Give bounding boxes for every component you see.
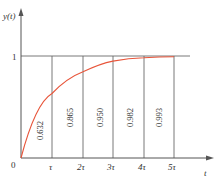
exponential-response-chart: y(t) t 0 1 τ 2τ 3τ 4τ 5τ 0.632 0.865 0.9… bbox=[0, 0, 223, 179]
value-tau-1: 0.632 bbox=[35, 121, 45, 140]
value-tau-5: 0.993 bbox=[154, 108, 164, 127]
y-tick-one: 1 bbox=[12, 52, 17, 62]
vertical-gridlines bbox=[52, 56, 174, 158]
x-axis-label: t bbox=[204, 168, 207, 178]
value-tau-3: 0.950 bbox=[95, 108, 105, 127]
x-tick-tau-5: 5τ bbox=[168, 162, 177, 172]
value-annotations: 0.632 0.865 0.950 0.982 0.993 bbox=[35, 108, 164, 140]
y-axis-label: y(t) bbox=[2, 11, 16, 21]
x-tick-tau-4: 4τ bbox=[138, 162, 147, 172]
x-tick-tau-1: τ bbox=[49, 162, 53, 172]
value-tau-2: 0.865 bbox=[65, 108, 75, 127]
x-tick-labels: τ 2τ 3τ 4τ 5τ bbox=[49, 162, 177, 172]
response-curve bbox=[21, 57, 174, 158]
value-tau-4: 0.982 bbox=[125, 108, 135, 127]
y-axis-arrow-icon bbox=[19, 8, 24, 16]
x-tick-tau-2: 2τ bbox=[77, 162, 86, 172]
x-axis-arrow-icon bbox=[206, 156, 214, 161]
x-tick-tau-3: 3τ bbox=[106, 162, 116, 172]
origin-label: 0 bbox=[11, 160, 16, 170]
